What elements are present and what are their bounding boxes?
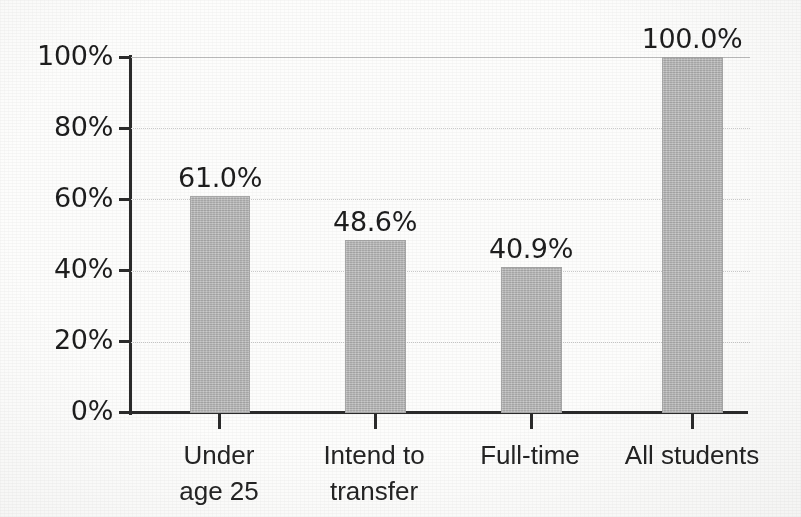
y-axis-label-text: 100% [3, 40, 113, 71]
gridline-80 [131, 128, 750, 129]
value-label-under-age-25: 61.0% [150, 162, 290, 193]
x-axis-tick-under-age-25 [218, 414, 221, 429]
x-axis-tick-full-time [530, 414, 533, 429]
y-axis-label-text: 60% [3, 182, 113, 213]
y-axis-label-text: 80% [3, 111, 113, 142]
y-axis-label-80: 80% [0, 111, 113, 145]
y-axis-label-100: 100% [0, 40, 113, 74]
y-axis-label-0: 0% [0, 395, 113, 429]
x-axis-tick-intend-to-transfer [374, 414, 377, 429]
y-axis-label-text: 40% [3, 253, 113, 284]
x-axis-category-all-students: All students [606, 437, 778, 473]
value-label-all-students: 100.0% [612, 23, 772, 54]
y-axis-label-40: 40% [0, 253, 113, 287]
y-axis-label-60: 60% [0, 182, 113, 216]
x-axis-category-intend-to-transfer: Intend to transfer [304, 437, 444, 509]
x-axis-category-full-time: Full-time [460, 437, 600, 473]
x-axis-tick-all-students [691, 414, 694, 429]
bar-full-time[interactable] [501, 267, 562, 413]
bar-under-age-25[interactable] [190, 196, 250, 413]
gridline-100 [131, 57, 750, 58]
value-label-intend-to-transfer: 48.6% [305, 206, 445, 237]
y-axis-label-text: 0% [3, 395, 113, 426]
x-axis-category-under-age-25: Under age 25 [149, 437, 289, 509]
bar-intend-to-transfer[interactable] [345, 240, 406, 413]
chart-page: 100% 80% 60% 40% 20% 0% 61.0% 48.6% 40.9… [0, 0, 801, 517]
y-axis-label-20: 20% [0, 324, 113, 358]
y-axis-label-text: 20% [3, 324, 113, 355]
value-label-full-time: 40.9% [461, 233, 601, 264]
bar-all-students[interactable] [662, 57, 723, 413]
